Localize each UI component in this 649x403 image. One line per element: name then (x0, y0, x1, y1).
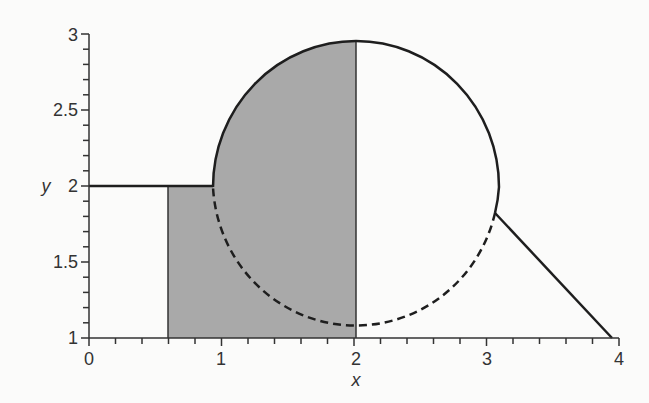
y-tick-label-3: 3 (68, 25, 78, 45)
x-tick-label-3: 3 (482, 349, 492, 369)
x-tick-label-4: 4 (614, 349, 624, 369)
y-axis-ticks (81, 34, 89, 338)
diagonal-segment (495, 213, 612, 338)
shaded-region (168, 41, 356, 338)
x-axis-ticks (89, 338, 619, 346)
y-tick-label-1-5: 1.5 (53, 252, 78, 272)
y-axis-label: y (40, 176, 52, 196)
figure: 0 1 2 3 4 x 1 1.5 2 2.5 3 y (0, 0, 649, 403)
x-tick-label-0: 0 (84, 349, 94, 369)
x-tick-label-1: 1 (216, 349, 226, 369)
y-tick-label-2-5: 2.5 (53, 100, 78, 120)
y-tick-label-1: 1 (68, 328, 78, 348)
x-tick-label-2: 2 (351, 349, 361, 369)
x-axis-label: x (351, 370, 362, 390)
y-tick-label-2: 2 (68, 176, 78, 196)
diagram-canvas: 0 1 2 3 4 x 1 1.5 2 2.5 3 y (0, 0, 649, 403)
